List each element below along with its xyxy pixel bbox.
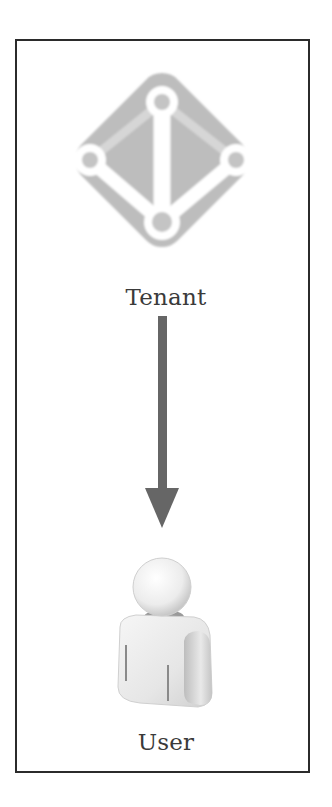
user-label: User [0, 729, 332, 755]
tenant-label: Tenant [0, 284, 332, 310]
arrow-down-icon [142, 316, 182, 531]
user-person-icon [110, 553, 222, 719]
directory-tenant-icon [54, 52, 270, 268]
